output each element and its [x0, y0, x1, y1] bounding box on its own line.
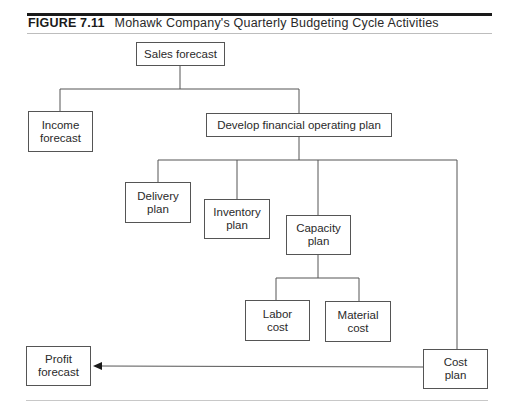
- node-income-forecast: Incomeforecast: [28, 111, 93, 152]
- node-inventory-plan: Inventoryplan: [204, 199, 270, 239]
- node-delivery-plan: Deliveryplan: [125, 182, 191, 223]
- node-profit-forecast: Profitforecast: [26, 346, 91, 386]
- bottom-rule: [26, 400, 488, 401]
- node-labor-cost: Laborcost: [245, 300, 310, 341]
- node-develop-financial-operating-plan: Develop financial operating plan: [206, 113, 392, 137]
- node-cost-plan: Costplan: [423, 349, 488, 389]
- node-material-cost: Materialcost: [325, 301, 391, 342]
- arrowhead-icon: [93, 362, 102, 370]
- node-capacity-plan: Capacityplan: [286, 215, 351, 255]
- node-sales-forecast: Sales forecast: [136, 42, 225, 66]
